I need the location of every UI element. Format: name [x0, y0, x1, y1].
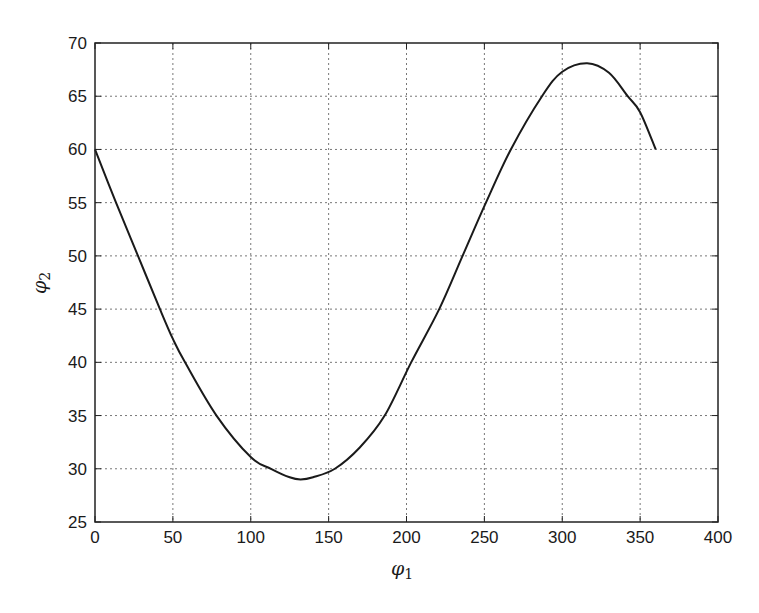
x-tick-labels: 050100150200250300350400	[90, 528, 732, 547]
y-tick-label: 70	[68, 34, 87, 53]
y-tick-label: 45	[68, 300, 87, 319]
data-line	[95, 63, 656, 479]
x-tick-label: 250	[470, 528, 498, 547]
x-tick-label: 100	[237, 528, 265, 547]
y-axis-label: φ2	[28, 272, 53, 294]
x-tick-label: 0	[90, 528, 99, 547]
y-tick-label: 50	[68, 247, 87, 266]
x-tick-label: 200	[392, 528, 420, 547]
y-tick-label: 25	[68, 513, 87, 532]
grid-lines	[95, 43, 718, 522]
y-tick-label: 60	[68, 140, 87, 159]
y-tick-label: 30	[68, 460, 87, 479]
x-tick-label: 400	[704, 528, 732, 547]
x-tick-label: 50	[163, 528, 182, 547]
y-tick-labels: 25303540455055606570	[68, 34, 87, 532]
x-tick-label: 350	[626, 528, 654, 547]
y-tick-label: 55	[68, 194, 87, 213]
x-tick-label: 150	[314, 528, 342, 547]
y-tick-label: 65	[68, 87, 87, 106]
chart: 050100150200250300350400 253035404550556…	[0, 0, 759, 613]
x-tick-label: 300	[548, 528, 576, 547]
y-tick-label: 35	[68, 407, 87, 426]
y-tick-label: 40	[68, 353, 87, 372]
x-axis-label: φ1	[391, 557, 413, 582]
